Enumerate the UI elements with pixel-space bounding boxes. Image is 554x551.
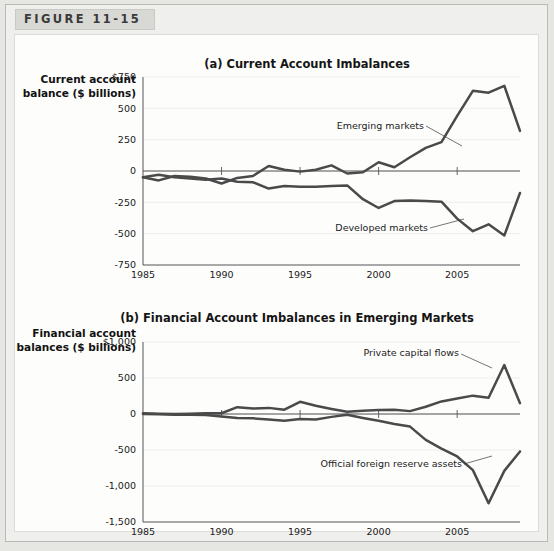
series-annotation: Private capital flows [363, 347, 459, 358]
x-tick-label: 1990 [209, 526, 233, 537]
x-tick-label: 2005 [445, 526, 469, 537]
y-tick-label: -500 [114, 444, 136, 455]
x-tick-label: 1985 [131, 526, 155, 537]
y-tick-label: 500 [118, 372, 136, 383]
annotation-leader-line [464, 456, 492, 464]
series-line [143, 365, 520, 414]
annotation-leader-line [461, 354, 492, 368]
figure-container: FIGURE 11-15 (a) Current Account Imbalan… [0, 0, 554, 551]
y-tick-label: $1,000 [103, 336, 136, 347]
y-tick-label: 0 [130, 408, 136, 419]
x-tick-label: 1995 [288, 526, 312, 537]
x-tick-label: 2000 [367, 526, 391, 537]
chart-b-plot: $1,0005000-500-1,000-1,50019851990199520… [0, 0, 554, 551]
y-tick-label: -1,000 [105, 480, 136, 491]
series-annotation: Official foreign reserve assets [321, 458, 462, 469]
